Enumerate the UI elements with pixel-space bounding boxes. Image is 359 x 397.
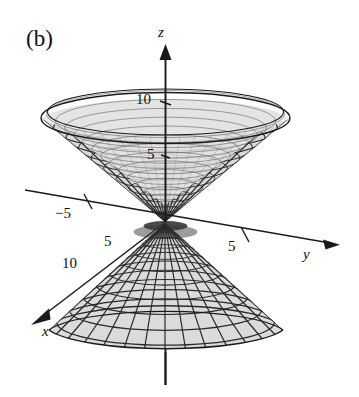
y-tick-label-neg5: −5 (55, 206, 71, 221)
x-tick-label-5: 5 (104, 234, 112, 249)
z-tick-label-10: 10 (136, 92, 151, 107)
y-tick-label-5: 5 (228, 239, 236, 254)
x-axis-label: x (42, 324, 49, 339)
panel-label: (b) (26, 27, 53, 50)
z-axis-arrow-icon (160, 44, 172, 60)
x-tick-label-10: 10 (62, 256, 77, 271)
z-tick-label-5: 5 (147, 147, 155, 162)
y-axis-arrow-icon (323, 240, 340, 250)
double-cone-plot (0, 0, 359, 397)
z-axis-label: z (158, 25, 164, 40)
y-axis-label: y (303, 247, 310, 262)
figure-container: (b) z y x 10 5 −5 5 5 10 (0, 0, 359, 397)
